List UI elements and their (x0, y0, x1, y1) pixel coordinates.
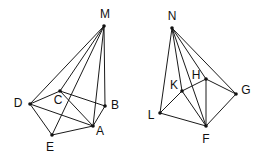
vertex-label-e: E (46, 140, 54, 154)
edge-gf (206, 94, 236, 126)
edge-nh (172, 28, 206, 79)
pyramid-n-figure: NHKGLF (148, 9, 251, 146)
vertex-n (170, 26, 174, 30)
edge-fl (160, 113, 206, 126)
vertex-label-f: F (202, 132, 209, 146)
vertex-d (28, 102, 32, 106)
edge-da (30, 104, 93, 126)
edge-ed (30, 104, 52, 135)
vertex-label-a: A (96, 124, 104, 138)
vertex-b (103, 104, 107, 108)
vertex-h (204, 77, 208, 81)
vertex-l (158, 111, 162, 115)
vertex-label-n: N (168, 9, 177, 23)
edge-mb (104, 26, 105, 106)
pyramid-diagram: MCDBAE NHKGLF (0, 0, 260, 163)
vertex-k (180, 89, 184, 93)
vertex-g (234, 92, 238, 96)
vertex-label-l: L (148, 108, 155, 122)
vertex-label-k: K (170, 78, 178, 92)
vertex-label-d: D (14, 96, 23, 110)
edge-mc (60, 26, 104, 91)
vertex-label-h: H (192, 68, 201, 82)
edge-ae (52, 126, 93, 135)
vertex-label-m: M (100, 7, 110, 21)
vertex-e (50, 133, 54, 137)
vertex-f (204, 124, 208, 128)
edge-md (30, 26, 104, 104)
edge-hg (206, 79, 236, 94)
vertex-label-b: B (111, 98, 119, 112)
edge-me (52, 26, 104, 135)
vertex-m (102, 24, 106, 28)
vertex-a (91, 124, 95, 128)
edge-lk (160, 91, 182, 113)
pyramid-m-figure: MCDBAE (14, 7, 119, 154)
edge-ng (172, 28, 236, 94)
vertex-label-g: G (241, 83, 250, 97)
edge-nl (160, 28, 172, 113)
vertex-label-c: C (54, 93, 63, 107)
edge-nf (172, 28, 206, 126)
